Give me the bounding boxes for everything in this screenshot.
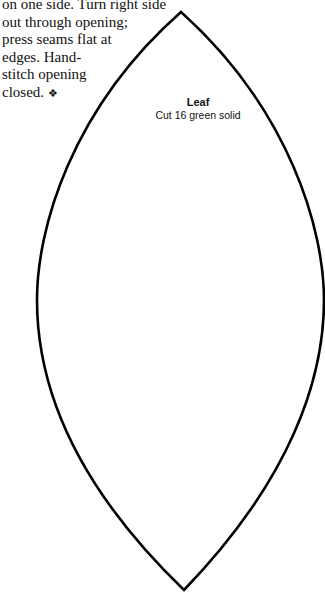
- instruction-line: edges. Hand-: [2, 49, 166, 67]
- sewing-instructions: on one side. Turn right side out through…: [2, 0, 166, 103]
- pattern-name: Leaf: [128, 96, 268, 109]
- instruction-text: closed.: [2, 84, 44, 100]
- instruction-line: stitch opening: [2, 66, 166, 84]
- cut-instruction: Cut 16 green solid: [128, 109, 268, 122]
- instruction-line: press seams flat at: [2, 31, 166, 49]
- instruction-line: out through opening;: [2, 14, 166, 32]
- end-mark-icon: ❖: [48, 87, 58, 99]
- pattern-label: Leaf Cut 16 green solid: [128, 96, 268, 122]
- instruction-line: on one side. Turn right side: [2, 0, 166, 14]
